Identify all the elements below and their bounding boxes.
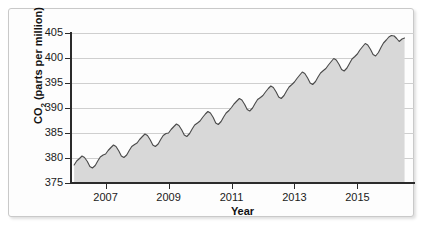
plot-area <box>71 33 414 183</box>
x-axis-tick-label: 2007 <box>86 191 126 203</box>
x-axis-tick <box>232 184 233 189</box>
x-axis-tick-label: 2009 <box>149 191 189 203</box>
y-axis-tick <box>65 58 70 59</box>
y-axis-line <box>70 32 72 184</box>
y-axis-title: CO2 (parts per million) <box>32 0 47 141</box>
y-axis-title-subscript: 2 <box>39 103 48 107</box>
series-fill <box>74 36 404 184</box>
y-axis-tick <box>65 108 70 109</box>
y-axis-tick <box>65 83 70 84</box>
x-axis-tick-label: 2015 <box>337 191 377 203</box>
y-axis-tick <box>65 133 70 134</box>
x-axis-tick-label: 2011 <box>212 191 252 203</box>
x-axis-line <box>70 182 415 184</box>
x-axis-title: Year <box>71 205 414 217</box>
y-axis-tick-label: 375 <box>29 177 63 188</box>
x-axis-tick <box>106 184 107 189</box>
y-axis-tick-label: 380 <box>29 152 63 163</box>
y-axis-title-units: (parts per million) <box>32 7 44 103</box>
y-axis-title-main: CO <box>32 108 44 125</box>
co2-area-series <box>71 33 414 183</box>
chart-page: 375380385390395400405 CO2 (parts per mil… <box>0 0 425 230</box>
x-axis-tick <box>357 184 358 189</box>
x-axis-tick <box>169 184 170 189</box>
figure-frame: 375380385390395400405 CO2 (parts per mil… <box>8 8 414 217</box>
x-axis-tick <box>294 184 295 189</box>
y-axis-tick <box>65 33 70 34</box>
y-axis-tick <box>65 158 70 159</box>
x-axis-tick-label: 2013 <box>274 191 314 203</box>
y-axis-tick <box>65 183 70 184</box>
